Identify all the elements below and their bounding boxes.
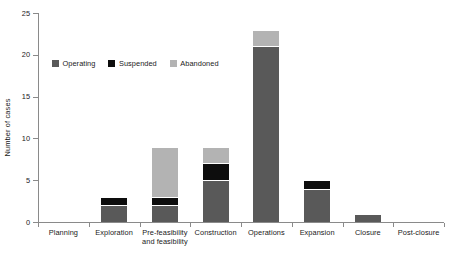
bar-segment bbox=[304, 189, 330, 222]
x-axis-labels: PlanningExplorationPre-feasibilityand fe… bbox=[38, 228, 444, 255]
x-axis-tick bbox=[292, 223, 293, 227]
bar-segment bbox=[304, 180, 330, 188]
x-axis-tick bbox=[89, 223, 90, 227]
y-axis-tick-label: 0 bbox=[26, 217, 30, 228]
legend-swatch-icon bbox=[108, 60, 115, 67]
bar-group bbox=[304, 180, 330, 222]
x-axis-tick bbox=[190, 223, 191, 227]
legend-swatch-icon bbox=[170, 60, 177, 67]
x-axis-tick bbox=[38, 223, 39, 227]
y-axis-title: Number of cases bbox=[1, 0, 15, 255]
bar-group bbox=[203, 147, 229, 222]
chart-legend: OperatingSuspendedAbandoned bbox=[52, 59, 219, 68]
bar-group bbox=[152, 147, 178, 222]
bar-segment bbox=[152, 197, 178, 205]
legend-item: Abandoned bbox=[170, 59, 219, 68]
legend-item: Operating bbox=[52, 59, 95, 68]
bar-segment bbox=[152, 147, 178, 197]
legend-label: Abandoned bbox=[180, 59, 218, 68]
stacked-bar-chart: Number of cases 0510152025 PlanningExplo… bbox=[0, 0, 449, 255]
bar-segment bbox=[152, 205, 178, 222]
x-axis-tick bbox=[393, 223, 394, 227]
bar-group bbox=[101, 197, 127, 222]
x-axis-label-line: and feasibility bbox=[136, 237, 195, 246]
legend-swatch-icon bbox=[52, 60, 59, 67]
x-axis-tick bbox=[343, 223, 344, 227]
bars-layer bbox=[38, 13, 444, 222]
legend-item: Suspended bbox=[108, 59, 156, 68]
bar-group bbox=[355, 214, 381, 222]
bar-group bbox=[253, 30, 279, 222]
y-axis-tick-label: 15 bbox=[22, 91, 30, 102]
bar-segment bbox=[203, 180, 229, 222]
y-axis-tick-label: 20 bbox=[22, 49, 30, 60]
legend-label: Suspended bbox=[119, 59, 157, 68]
bar-segment bbox=[203, 147, 229, 164]
y-axis-tick-label: 10 bbox=[22, 133, 30, 144]
legend-label: Operating bbox=[63, 59, 96, 68]
y-axis-tick-label: 25 bbox=[22, 8, 30, 19]
x-axis-label: Post-closure bbox=[389, 228, 448, 237]
bar-segment bbox=[203, 163, 229, 180]
x-axis-tick bbox=[140, 223, 141, 227]
bar-segment bbox=[355, 214, 381, 222]
x-axis-label-line: Post-closure bbox=[389, 228, 448, 237]
bar-segment bbox=[101, 205, 127, 222]
x-axis-tick bbox=[444, 223, 445, 227]
x-axis-tick bbox=[241, 223, 242, 227]
bar-segment bbox=[253, 30, 279, 47]
y-axis-tick-label: 5 bbox=[26, 175, 30, 186]
bar-segment bbox=[101, 197, 127, 205]
bar-segment bbox=[253, 46, 279, 222]
